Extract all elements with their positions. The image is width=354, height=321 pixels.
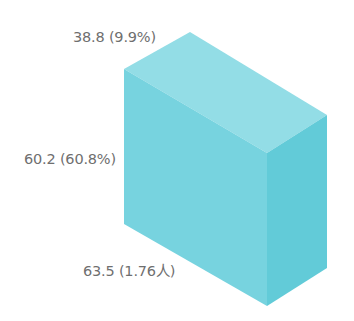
middle-value-label: 60.2 (60.8%) — [24, 151, 116, 167]
bottom-value-label: 63.5 (1.76人) — [83, 259, 175, 280]
top-value-label: 38.8 (9.9%) — [73, 29, 156, 45]
